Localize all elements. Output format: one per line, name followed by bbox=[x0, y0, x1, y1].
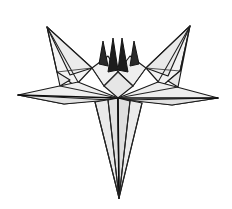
origami-star-sketch-canvas bbox=[0, 0, 232, 209]
origami-star-drawing bbox=[0, 0, 232, 209]
crease-bottom-spine bbox=[118, 98, 119, 198]
